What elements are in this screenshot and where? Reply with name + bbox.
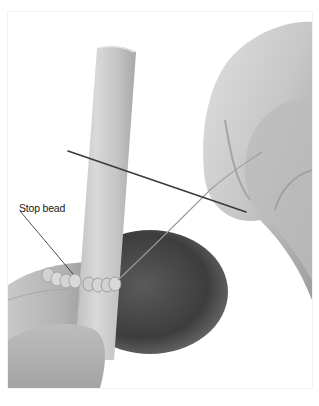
leader-line — [20, 211, 73, 274]
photo — [8, 12, 312, 388]
right-hand — [203, 22, 312, 300]
beading-illustration — [8, 12, 312, 388]
stop-bead-label: Stop bead — [19, 202, 65, 214]
left-thumb — [8, 324, 105, 388]
beads — [83, 277, 121, 292]
